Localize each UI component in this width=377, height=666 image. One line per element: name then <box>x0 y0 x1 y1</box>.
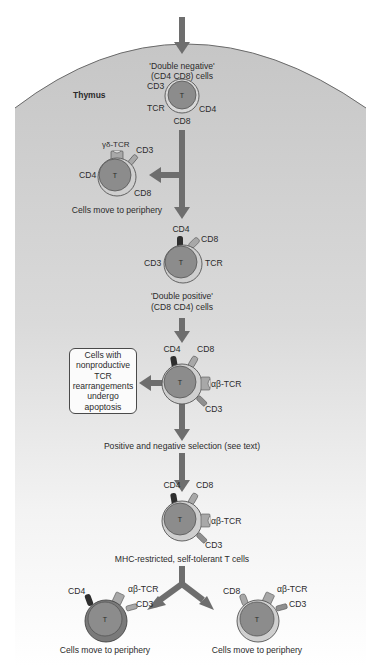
cd4s-caption: Cells move to periphery <box>60 645 151 655</box>
dn-marker-cd8: CD8 <box>173 116 190 126</box>
mhc-caption: MHC-restricted, self-tolerant T cells <box>115 554 249 564</box>
ab-marker-tcr: αβ-TCR <box>211 379 241 389</box>
cd4s-marker-cd4: CD4 <box>68 586 85 596</box>
ab-cell-letter: T <box>178 379 183 386</box>
apoptosis-line: TCR <box>94 371 112 381</box>
cd4s-marker-tcr: αβ-TCR <box>128 584 158 594</box>
apoptosis-line: nonproductive <box>76 360 130 370</box>
mhc-marker-cd8: CD8 <box>196 480 213 490</box>
ab-marker-cd8: CD8 <box>197 344 214 354</box>
cd8s-marker-tcr: αβ-TCR <box>277 584 307 594</box>
gd-marker-cd3: CD3 <box>136 145 153 155</box>
gd-cell-letter: T <box>113 172 118 179</box>
dp-marker-cd4: CD4 <box>172 224 189 234</box>
dp-title: 'Double positive' <box>151 291 213 301</box>
gd-marker-cd4: CD4 <box>79 170 96 180</box>
apoptosis-line: apoptosis <box>85 402 122 412</box>
gd-marker-cd8: CD8 <box>134 188 151 198</box>
dp-cell-letter: T <box>179 259 184 266</box>
gd-marker-tcr: γδ-TCR <box>102 140 130 149</box>
dp-subtitle: (CD8 CD4) cells <box>151 302 213 312</box>
thymus-label: Thymus <box>73 90 106 100</box>
dn-marker-cd4: CD4 <box>199 104 216 114</box>
mhc-cell-letter: T <box>178 516 183 523</box>
ab-marker-cd3: CD3 <box>205 404 222 414</box>
dp-marker-cd3: CD3 <box>144 258 161 268</box>
cd4s-cell-letter: T <box>103 616 108 623</box>
dn-title: 'Double negative' <box>149 61 215 71</box>
apoptosis-box: Cells with nonproductive TCR rearrangeme… <box>69 348 137 414</box>
mhc-marker-cd4: CD4 <box>163 480 180 490</box>
t-cell-development-diagram: Thymus 'Double negative' (CD4 CD8) cell <box>0 0 377 666</box>
apoptosis-line: rearrangements <box>73 381 134 391</box>
dn-marker-cd3: CD3 <box>147 81 164 91</box>
cd8s-cell-letter: T <box>255 616 260 623</box>
selection-label: Positive and negative selection (see tex… <box>104 441 260 451</box>
cd8s-marker-cd3: CD3 <box>289 599 306 609</box>
thymus-region <box>15 44 366 666</box>
apoptosis-line: Cells with <box>85 350 122 360</box>
cd8s-caption: Cells move to periphery <box>212 645 303 655</box>
dn-marker-tcr: TCR <box>147 103 165 113</box>
cd8s-marker-cd8: CD8 <box>223 586 240 596</box>
mhc-marker-tcr: αβ-TCR <box>211 516 241 526</box>
gd-caption: Cells move to periphery <box>72 205 163 215</box>
mhc-marker-cd3: CD3 <box>205 540 222 550</box>
apoptosis-line: undergo <box>87 391 119 401</box>
dn-cell-letter: T <box>180 92 185 99</box>
dp-marker-cd8: CD8 <box>201 234 218 244</box>
cd4s-marker-cd3: CD3 <box>136 599 153 609</box>
ab-marker-cd4: CD4 <box>163 344 180 354</box>
dp-marker-tcr: TCR <box>205 258 223 268</box>
